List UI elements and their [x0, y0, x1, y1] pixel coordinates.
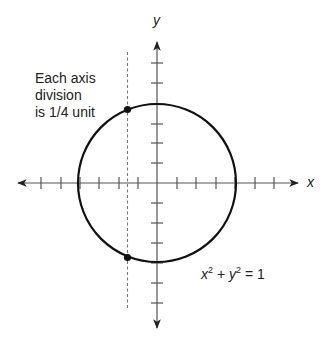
eq-equals-one: = 1	[245, 266, 265, 282]
eq-plus: +	[217, 266, 225, 282]
note-line-2: division	[35, 87, 96, 104]
lower-intersection-point	[124, 254, 131, 261]
eq-exp-x: 2	[208, 265, 213, 275]
eq-var-x: x	[201, 266, 208, 282]
upper-intersection-point	[124, 106, 131, 113]
eq-var-y: y	[229, 266, 236, 282]
y-axis-label: y	[153, 12, 160, 28]
eq-exp-y: 2	[236, 265, 241, 275]
circle-equation: x2 + y2 = 1	[201, 266, 265, 282]
x-axis-label: x	[307, 174, 314, 190]
note-line-1: Each axis	[35, 70, 96, 87]
axis-division-note: Each axis division is 1/4 unit	[35, 70, 96, 121]
unit-circle-diagram	[0, 0, 331, 341]
note-line-3: is 1/4 unit	[35, 104, 96, 121]
